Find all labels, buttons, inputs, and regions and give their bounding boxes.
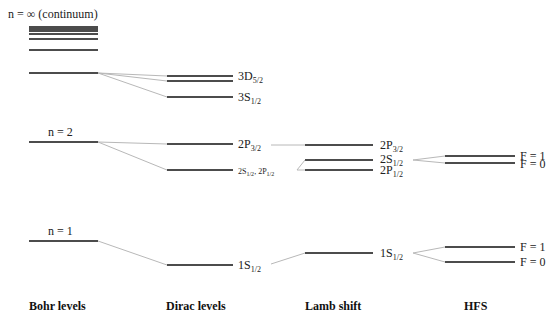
column-bohr: Bohr levels (29, 299, 86, 314)
energy-level-diagram (0, 0, 559, 328)
label-sub: 5/2 (253, 76, 263, 85)
label-main: 2P (380, 163, 393, 177)
label-sub: 1/2 (246, 171, 254, 177)
label-dirac-2p32: 2P3/2 (238, 138, 261, 155)
label-main: 3D (238, 69, 253, 83)
label-main: 1S (238, 258, 251, 272)
label-3d52: 3D5/2 (238, 70, 263, 87)
label-main: 2P (258, 167, 266, 176)
label-lamb-2p12: 2P1/2 (380, 164, 403, 181)
dirac-levels (167, 76, 233, 265)
label-sub: 1/2 (393, 170, 403, 179)
label-main: 2P (238, 137, 251, 151)
label-sub: 1/2 (267, 171, 275, 177)
n2-label: n = 2 (48, 126, 73, 138)
label-dirac-1s12: 1S1/2 (238, 259, 261, 276)
continuum-label: n = ∞ (continuum) (8, 8, 98, 20)
label-sub: 1/2 (251, 97, 261, 106)
label-hfs-n2-f0: F = 0 (520, 158, 545, 170)
label-3s12: 3S1/2 (238, 91, 261, 108)
label-main: 3S (238, 90, 251, 104)
column-dirac: Dirac levels (166, 299, 226, 314)
label-sub: 1/2 (393, 253, 403, 262)
n1-label: n = 1 (48, 225, 73, 237)
lamb-levels (305, 145, 373, 253)
label-sub: 1/2 (251, 265, 261, 274)
label-hfs-n1-f1: F = 1 (520, 241, 545, 253)
label-main: 1S (380, 246, 393, 260)
label-dirac-2s12-2p12: 2S1/2, 2P1/2 (238, 166, 274, 180)
label-main: 2P (380, 138, 393, 152)
column-hfs: HFS (464, 299, 487, 314)
label-sub: 3/2 (251, 144, 261, 153)
label-hfs-n1-f0: F = 0 (520, 256, 545, 268)
column-lamb: Lamb shift (305, 299, 361, 314)
label-lamb-1s12: 1S1/2 (380, 247, 403, 264)
hfs-levels (445, 156, 515, 262)
